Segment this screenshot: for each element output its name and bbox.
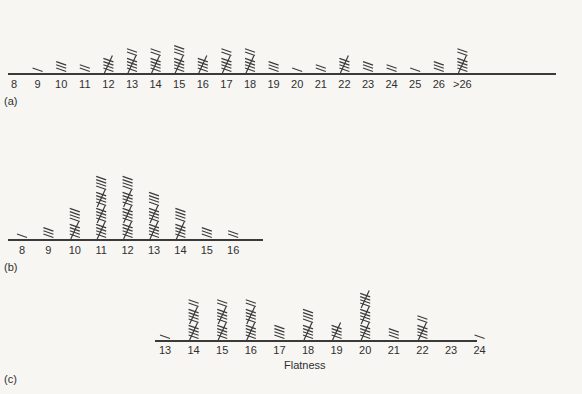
tally-column xyxy=(387,65,397,72)
tally-column xyxy=(269,62,279,72)
tally-histogram-figure: (a) 891011121314151617181920212223242526… xyxy=(0,0,582,394)
tally-column xyxy=(70,208,80,239)
tally-column xyxy=(246,300,256,340)
tally-column xyxy=(475,335,485,339)
tally-column xyxy=(228,231,238,238)
tally-column xyxy=(434,62,444,72)
tally-column xyxy=(202,228,212,238)
tally-column xyxy=(160,335,170,339)
tally-marks-layer xyxy=(0,0,582,394)
tally-column xyxy=(198,55,208,73)
tally-column xyxy=(217,300,227,340)
tally-column xyxy=(417,316,427,340)
tally-column xyxy=(175,208,185,239)
tally-column xyxy=(17,234,27,238)
tally-column xyxy=(123,176,133,239)
tally-column xyxy=(360,290,370,340)
tally-column xyxy=(96,176,106,239)
tally-column xyxy=(303,309,313,340)
tally-column xyxy=(103,55,113,73)
tally-column xyxy=(292,68,302,72)
tally-column xyxy=(80,65,90,72)
tally-column xyxy=(33,68,43,72)
tally-column xyxy=(274,325,284,338)
tally-column xyxy=(43,228,53,238)
tally-column xyxy=(189,300,199,340)
tally-column xyxy=(221,49,231,73)
tally-column xyxy=(149,192,159,239)
tally-column xyxy=(410,68,420,72)
tally-column xyxy=(245,49,255,73)
tally-column xyxy=(332,322,342,340)
tally-column xyxy=(339,55,349,73)
tally-column xyxy=(389,329,399,339)
tally-column xyxy=(127,49,137,73)
tally-column xyxy=(174,46,184,73)
tally-column xyxy=(457,49,467,73)
tally-column xyxy=(363,62,373,72)
tally-column xyxy=(316,65,326,72)
tally-column xyxy=(56,62,66,72)
tally-column xyxy=(151,49,161,73)
